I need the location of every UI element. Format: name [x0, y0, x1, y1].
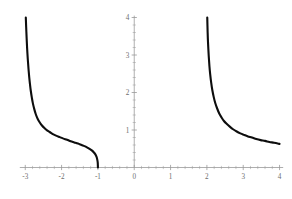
x-axis-tick-labels: -3-2-101234 [22, 173, 281, 181]
function-plot: -3-2-101234 1234 [0, 0, 292, 199]
x-tick-label: 3 [241, 173, 245, 181]
y-tick-label: 1 [126, 127, 130, 135]
x-tick-label: -2 [59, 173, 65, 181]
x-tick-label: 0 [132, 173, 136, 181]
y-axis-tick-labels: 1234 [126, 14, 130, 135]
plot-screenshot: -3-2-101234 1234 [0, 0, 292, 199]
curve-left-branch [26, 18, 98, 168]
x-tick-label: 2 [205, 173, 209, 181]
x-tick-label: 4 [278, 173, 282, 181]
x-tick-label: 1 [169, 173, 173, 181]
y-tick-label: 4 [126, 14, 130, 22]
x-tick-label: -3 [22, 173, 28, 181]
y-tick-label: 2 [126, 89, 130, 97]
curve-right-branch [207, 18, 279, 144]
curve-group [26, 18, 280, 168]
y-tick-label: 3 [126, 52, 130, 60]
x-tick-label: -1 [95, 173, 101, 181]
